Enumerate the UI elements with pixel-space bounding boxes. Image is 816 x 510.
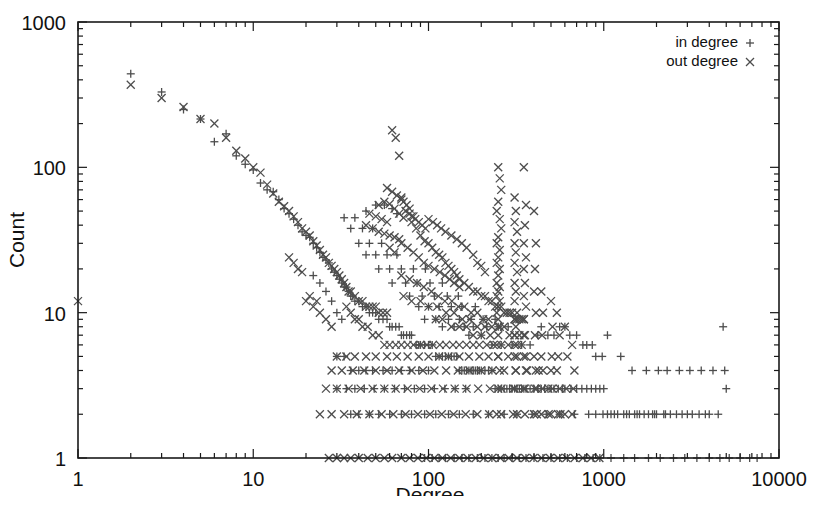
y-tick-label: 100 <box>33 157 66 179</box>
y-tick-label: 1 <box>55 448 66 470</box>
series-in-degree <box>127 70 761 462</box>
x-tick-label: 1000 <box>582 468 627 490</box>
data-markers-layer <box>74 70 761 462</box>
x-tick-label: 1 <box>72 468 83 490</box>
series-out-degree <box>74 81 603 462</box>
y-tick-label: 10 <box>44 303 66 325</box>
axes-frame-layer <box>78 22 779 458</box>
figure-root: 1101001000100001101001000 in degreeout d… <box>0 0 816 510</box>
y-axis-label: Count <box>5 212 28 268</box>
y-tick-label: 1000 <box>22 12 67 34</box>
legend-cross-icon <box>746 58 754 66</box>
scatter-plot: 1101001000100001101001000 in degreeout d… <box>0 0 816 510</box>
plot-legend: in degreeout degree <box>666 33 754 69</box>
legend-label-0: in degree <box>675 33 738 50</box>
legend-label-1: out degree <box>666 52 738 69</box>
x-axis-label: Degree <box>396 483 465 506</box>
x-tick-label: 10 <box>242 468 264 490</box>
legend-plus-icon <box>746 39 754 47</box>
x-tick-label: 10000 <box>751 468 807 490</box>
